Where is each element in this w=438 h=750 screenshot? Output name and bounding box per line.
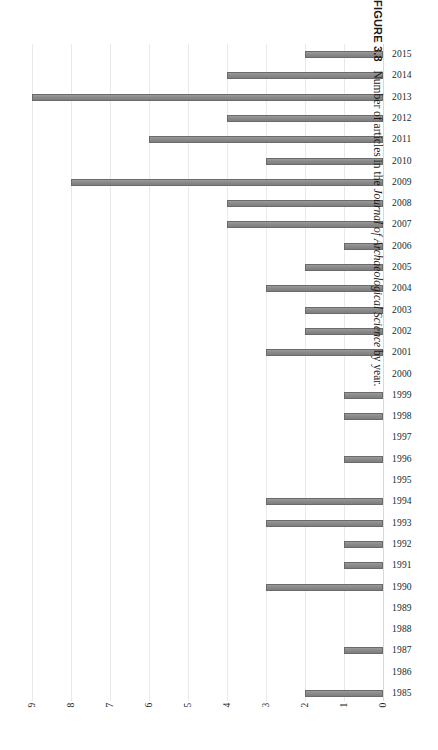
bar-row bbox=[0, 534, 400, 555]
bar-row bbox=[0, 87, 400, 108]
figure-caption: FIGURE 3.8 Number of articles in the Jou… bbox=[358, 0, 398, 750]
bar-row bbox=[0, 640, 400, 661]
bar-row bbox=[0, 449, 400, 470]
bar-2009 bbox=[71, 179, 383, 186]
bar-row bbox=[0, 193, 400, 214]
year-label-2008: 2008 bbox=[392, 193, 436, 214]
bar-row bbox=[0, 172, 400, 193]
bar-row bbox=[0, 427, 400, 448]
bar-row bbox=[0, 662, 400, 683]
bar-2013 bbox=[32, 94, 383, 101]
year-label-2001: 2001 bbox=[392, 342, 436, 363]
x-tick-9: 9 bbox=[27, 698, 37, 712]
year-label-1988: 1988 bbox=[392, 619, 436, 640]
bar-row bbox=[0, 406, 400, 427]
bar-chart-plot-area: 2015201420132012201120102009200820072006… bbox=[0, 44, 400, 709]
bar-row bbox=[0, 44, 400, 65]
bar-row bbox=[0, 151, 400, 172]
x-axis-ticks: 9876543210 bbox=[0, 700, 400, 730]
bar-2011 bbox=[149, 136, 383, 143]
x-tick-7: 7 bbox=[105, 698, 115, 712]
bar-row bbox=[0, 236, 400, 257]
bar-row bbox=[0, 598, 400, 619]
year-label-1993: 1993 bbox=[392, 513, 436, 534]
x-tick-8: 8 bbox=[66, 698, 76, 712]
year-label-2002: 2002 bbox=[392, 321, 436, 342]
bar-row bbox=[0, 257, 400, 278]
bar-row bbox=[0, 108, 400, 129]
x-tick-2: 2 bbox=[300, 698, 310, 712]
year-label-2005: 2005 bbox=[392, 257, 436, 278]
bar-row bbox=[0, 577, 400, 598]
year-label-1992: 1992 bbox=[392, 534, 436, 555]
year-label-2011: 2011 bbox=[392, 129, 436, 150]
year-label-2012: 2012 bbox=[392, 108, 436, 129]
year-label-2004: 2004 bbox=[392, 278, 436, 299]
year-label-2015: 2015 bbox=[392, 44, 436, 65]
bar-row bbox=[0, 278, 400, 299]
x-tick-3: 3 bbox=[261, 698, 271, 712]
bar-row bbox=[0, 491, 400, 512]
x-tick-6: 6 bbox=[144, 698, 154, 712]
year-label-2014: 2014 bbox=[392, 65, 436, 86]
bar-row bbox=[0, 342, 400, 363]
year-label-1987: 1987 bbox=[392, 640, 436, 661]
year-label-1999: 1999 bbox=[392, 385, 436, 406]
year-label-2006: 2006 bbox=[392, 236, 436, 257]
year-label-1996: 1996 bbox=[392, 449, 436, 470]
year-label-1998: 1998 bbox=[392, 406, 436, 427]
year-label-1995: 1995 bbox=[392, 470, 436, 491]
bar-row bbox=[0, 470, 400, 491]
year-label-2000: 2000 bbox=[392, 364, 436, 385]
bar-row bbox=[0, 385, 400, 406]
year-label-1990: 1990 bbox=[392, 577, 436, 598]
x-tick-5: 5 bbox=[183, 698, 193, 712]
year-label-2009: 2009 bbox=[392, 172, 436, 193]
year-label-1989: 1989 bbox=[392, 598, 436, 619]
bar-row bbox=[0, 513, 400, 534]
year-label-1986: 1986 bbox=[392, 662, 436, 683]
x-tick-1: 1 bbox=[339, 698, 349, 712]
bar-row bbox=[0, 129, 400, 150]
year-label-2010: 2010 bbox=[392, 151, 436, 172]
bar-row bbox=[0, 214, 400, 235]
bar-row bbox=[0, 300, 400, 321]
year-label-2007: 2007 bbox=[392, 214, 436, 235]
year-label-1991: 1991 bbox=[392, 555, 436, 576]
bar-row bbox=[0, 555, 400, 576]
caption-text-pre: Number of articles in the bbox=[372, 71, 384, 189]
figure-container: 2015201420132012201120102009200820072006… bbox=[0, 0, 438, 750]
figure-number: FIGURE 3.8 bbox=[372, 0, 384, 62]
year-label-2003: 2003 bbox=[392, 300, 436, 321]
year-label-1997: 1997 bbox=[392, 427, 436, 448]
caption-text-post: by year. bbox=[372, 347, 384, 386]
bar-row bbox=[0, 321, 400, 342]
x-tick-4: 4 bbox=[222, 698, 232, 712]
caption-journal-title: Journal of Archaeological Science bbox=[372, 188, 384, 347]
bar-row bbox=[0, 619, 400, 640]
bar-row bbox=[0, 364, 400, 385]
year-label-1994: 1994 bbox=[392, 491, 436, 512]
bar-row bbox=[0, 65, 400, 86]
year-label-2013: 2013 bbox=[392, 87, 436, 108]
